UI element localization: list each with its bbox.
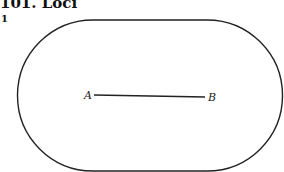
- point-a-label: A: [83, 89, 92, 102]
- segment-ab: [94, 95, 205, 97]
- loci-diagram: A B: [0, 0, 284, 172]
- point-b-label: B: [207, 91, 216, 104]
